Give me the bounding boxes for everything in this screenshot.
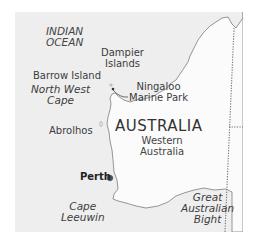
abrolhos-label: Abrolhos	[49, 126, 93, 137]
state-label-line2: Australia	[140, 147, 184, 158]
bight-label-line3: Bight	[181, 214, 234, 225]
state-label: Western Australia	[140, 136, 184, 157]
dampier-label-line1: Dampier	[101, 48, 144, 59]
cape-leeuwin-label: Cape Leeuwin	[61, 201, 105, 223]
ningaloo-label-line1: Ningaloo	[129, 82, 188, 93]
abrolhos-islands	[100, 122, 102, 127]
ningaloo-label-line2: Marine Park	[129, 93, 188, 104]
perth-label: Perth	[80, 172, 111, 183]
ningaloo-marine-park-label: Ningaloo Marine Park	[129, 82, 188, 103]
country-label: AUSTRALIA	[115, 119, 203, 135]
nwcape-label-line2: Cape	[31, 95, 90, 106]
great-australian-bight-label: Great Australian Bight	[181, 192, 234, 225]
dampier-islands-label: Dampier Islands	[101, 48, 144, 69]
dampier-label-line2: Islands	[101, 59, 144, 70]
state-label-line1: Western	[140, 136, 184, 147]
ocean-label: INDIAN OCEAN	[46, 26, 83, 48]
nwcape-dot	[112, 88, 115, 91]
leeuwin-label-line2: Leeuwin	[61, 212, 105, 223]
barrow-island-label: Barrow Island	[33, 71, 101, 82]
barrow-island	[110, 84, 112, 86]
map-frame: INDIAN OCEAN Dampier Islands Barrow Isla…	[15, 12, 243, 232]
ocean-label-line2: OCEAN	[46, 37, 83, 48]
north-west-cape-label: North West Cape	[31, 84, 90, 106]
